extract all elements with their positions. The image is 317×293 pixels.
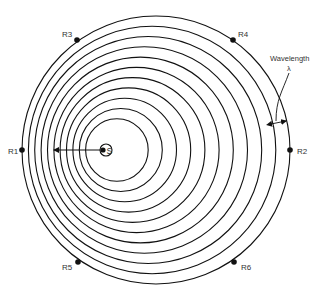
receiver-r6: R6 [231, 259, 252, 272]
receiver-label: R5 [62, 263, 73, 272]
wavelength-label: Wavelength [270, 54, 309, 63]
source-dot [100, 147, 105, 152]
receiver-dot [75, 259, 81, 265]
lambda-symbol: λ [287, 64, 291, 73]
receiver-dot [230, 37, 236, 43]
receiver-r4: R4 [230, 30, 249, 43]
receiver-label: R4 [238, 30, 249, 39]
receiver-r3: R3 [62, 30, 80, 43]
receiver-label: R3 [62, 30, 73, 39]
source-label: S [107, 146, 113, 156]
receiver-label: R1 [8, 147, 19, 156]
doppler-diagram: S R1R2R3R4R5R6 Wavelength λ [0, 0, 317, 293]
wavelength-leader-line [276, 73, 289, 121]
receiver-label: R2 [297, 147, 308, 156]
receiver-label: R6 [241, 263, 252, 272]
receiver-r5: R5 [62, 259, 81, 272]
receiver-dot [74, 37, 80, 43]
receiver-dot [231, 259, 237, 265]
receiver-dot [19, 147, 25, 153]
receiver-dot [287, 147, 293, 153]
